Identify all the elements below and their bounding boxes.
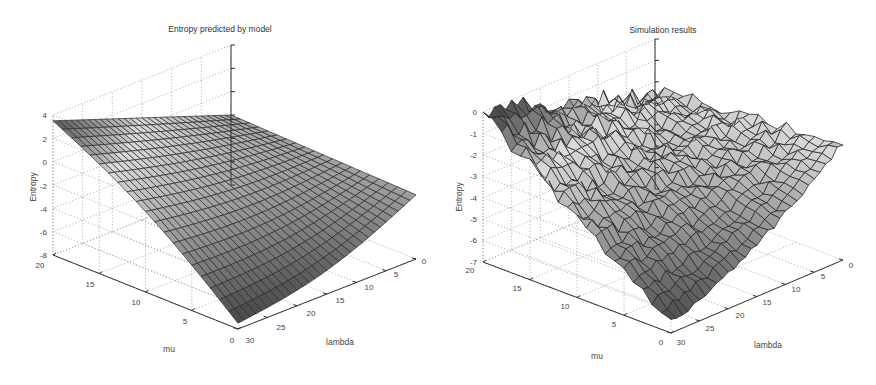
svg-text:20: 20 (466, 266, 475, 275)
svg-text:-4: -4 (470, 194, 478, 203)
mu-axis-label: mu (591, 351, 603, 361)
z-axis-label: Entropy (454, 182, 464, 212)
svg-text:15: 15 (763, 298, 772, 307)
svg-text:0: 0 (473, 108, 478, 117)
svg-text:30: 30 (677, 338, 686, 347)
svg-text:25: 25 (706, 324, 715, 333)
lambda-axis-label: lambda (754, 340, 782, 350)
figure: Entropy predicted by model Entropy mu la… (0, 0, 876, 385)
svg-text:-2: -2 (470, 151, 478, 160)
surface-mesh (483, 88, 843, 320)
svg-text:-1: -1 (470, 130, 478, 139)
svg-text:20: 20 (736, 311, 745, 320)
svg-text:10: 10 (561, 302, 570, 311)
svg-text:0: 0 (849, 261, 854, 270)
svg-text:-3: -3 (470, 172, 478, 181)
svg-text:10: 10 (792, 285, 801, 294)
simulation-entropy-plot: Simulation results Entropy mu lambda 0 -… (0, 0, 876, 385)
svg-text:-5: -5 (470, 215, 478, 224)
svg-text:5: 5 (821, 272, 826, 281)
svg-text:15: 15 (513, 284, 522, 293)
plot-title: Simulation results (629, 25, 696, 35)
z-tick-labels: 0 -1 -2 -3 -4 -5 -6 -7 (470, 108, 478, 267)
svg-text:5: 5 (612, 320, 617, 329)
svg-text:-6: -6 (470, 236, 478, 245)
svg-text:0: 0 (659, 338, 664, 347)
